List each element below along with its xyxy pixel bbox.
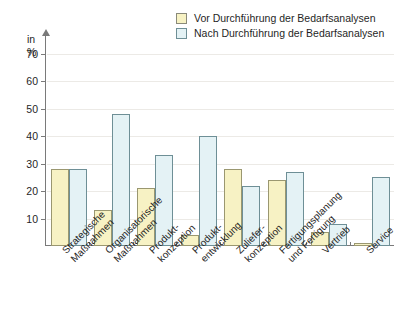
y-axis-arrow-icon (42, 29, 50, 36)
legend-swatch-after (176, 28, 187, 39)
y-tick-label-10: 10 (26, 213, 38, 225)
x-axis-category-labels: StrategischeMaßnahmenOrganisatorischeMaß… (47, 248, 394, 335)
legend-label-before: Vor Durchführung der Bedarfsanalysen (194, 12, 376, 24)
y-tick-mark-30 (41, 164, 46, 165)
bar (51, 169, 69, 246)
y-tick-mark-40 (41, 136, 46, 137)
bar-group (177, 40, 220, 246)
legend-item-before: Vor Durchführung der Bedarfsanalysen (176, 12, 384, 24)
y-axis-unit-in: in (27, 33, 35, 45)
y-tick-label-30: 30 (26, 158, 38, 170)
y-tick-label-40: 40 (26, 130, 38, 142)
legend-swatch-before (176, 13, 187, 24)
y-tick-label-50: 50 (26, 103, 38, 115)
legend-label-after: Nach Durchführung der Bedarfsanalysen (194, 27, 384, 39)
y-tick-label-60: 60 (26, 75, 38, 87)
y-tick-mark-70 (41, 54, 46, 55)
y-tick-label-70: 70 (26, 48, 38, 60)
y-tick-mark-60 (41, 81, 46, 82)
legend-item-after: Nach Durchführung der Bedarfsanalysen (176, 27, 384, 39)
y-tick-mark-50 (41, 109, 46, 110)
bar-group (351, 40, 394, 246)
y-tick-label-20: 20 (26, 185, 38, 197)
bar-group (47, 40, 90, 246)
chart-legend: Vor Durchführung der Bedarfsanalysen Nac… (176, 12, 384, 39)
y-axis-line (45, 34, 46, 246)
y-tick-mark-20 (41, 191, 46, 192)
y-tick-mark-10 (41, 219, 46, 220)
bar-chart: Vor Durchführung der Bedarfsanalysen Nac… (0, 0, 404, 335)
